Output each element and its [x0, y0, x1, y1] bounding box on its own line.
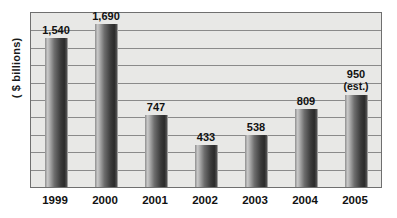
bar-value-text: 1,540	[42, 24, 70, 36]
bar-value-text: 1,690	[92, 10, 120, 22]
bar	[145, 115, 168, 187]
bar-value-text: 433	[197, 131, 215, 143]
bar	[345, 95, 368, 187]
x-axis-tick-2003: 2003	[227, 192, 283, 208]
bar-value-label: 1,540	[28, 24, 84, 36]
bar-value-label: 950(est.)	[328, 68, 384, 92]
bar-value-text: 950	[347, 68, 365, 80]
bar-value-text: 538	[247, 121, 265, 133]
x-axis-tick-2005: 2005	[327, 192, 383, 208]
bar-value-label: 1,690	[78, 10, 134, 22]
bar-value-text: 809	[297, 95, 315, 107]
x-axis-tick-2004: 2004	[277, 192, 333, 208]
bar-series: 1,5401,690747433538809950(est.)	[31, 13, 381, 187]
bar	[245, 135, 268, 187]
bar	[95, 24, 118, 187]
x-axis-tick-2001: 2001	[127, 192, 183, 208]
y-axis-label: ( $ billions)	[10, 8, 22, 128]
bar-value-label: 538	[228, 121, 284, 133]
x-axis-tick-1999: 1999	[27, 192, 83, 208]
bar	[45, 38, 68, 187]
x-axis-tick-labels: 1999200020012002200320042005	[30, 192, 382, 212]
bar-value-label: 433	[178, 131, 234, 143]
cut-off-title	[0, 0, 397, 4]
bar-value-annotation: (est.)	[328, 80, 384, 92]
bar	[195, 145, 218, 187]
chart-plot-area: 1,5401,690747433538809950(est.)	[30, 12, 382, 188]
bar-value-label: 747	[128, 101, 184, 113]
bar-value-label: 809	[278, 95, 334, 107]
x-axis-tick-2002: 2002	[177, 192, 233, 208]
x-axis-tick-2000: 2000	[77, 192, 133, 208]
bar	[295, 109, 318, 187]
bar-value-text: 747	[147, 101, 165, 113]
